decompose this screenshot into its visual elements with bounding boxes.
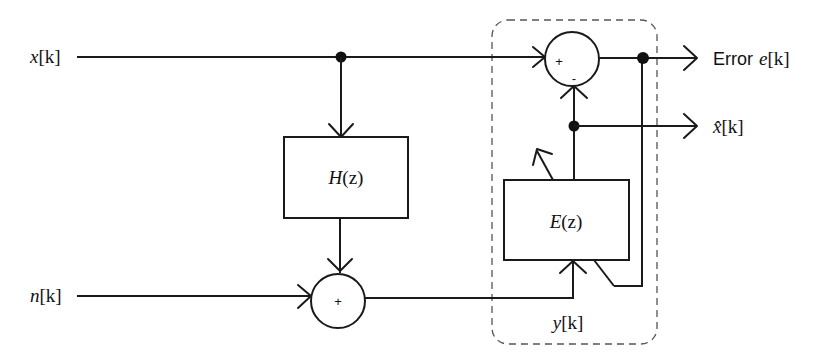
adaptation-line-lower (594, 260, 614, 286)
input-x: x[k] (29, 46, 61, 67)
h-block: H(z) (284, 137, 408, 218)
y-signal-wire (365, 261, 573, 298)
block-diagram: x[k] H(z) n[k] + E(z) x̂[k] (0, 0, 836, 361)
noise-summer-plus-sign: + (334, 294, 342, 309)
output-xhat-label: x̂[k] (712, 116, 744, 137)
input-n-label: n[k] (30, 285, 62, 306)
e-block-label: E(z) (549, 211, 583, 233)
error-junction-dot (637, 52, 649, 64)
noise-summer: + (311, 274, 365, 328)
error-summer-minus-sign: - (572, 71, 576, 86)
output-error-label: Errore[k] (713, 48, 790, 69)
e-block: E(z) (504, 180, 629, 260)
input-x-label: x[k] (29, 46, 61, 67)
adaptation-line-upper (537, 151, 553, 180)
input-n: n[k] (30, 285, 62, 306)
y-signal-label: y[k] (551, 312, 584, 333)
h-block-label: H(z) (328, 167, 364, 189)
error-summer: + - (545, 32, 599, 86)
error-summer-plus-sign: + (555, 54, 563, 69)
